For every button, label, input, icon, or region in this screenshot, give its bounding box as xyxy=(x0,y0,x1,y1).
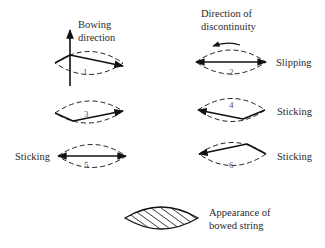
frame-6: 6 xyxy=(199,143,266,171)
svg-text:2: 2 xyxy=(229,67,234,77)
frame-4: 4 xyxy=(198,99,265,122)
direction-of-discontinuity-label: Direction of discontinuity xyxy=(201,8,257,32)
bowing-direction-label: Bowing direction xyxy=(78,19,116,43)
bowed-string-diagram: Bowing direction 1 Direction of disconti… xyxy=(0,0,325,248)
svg-text:1: 1 xyxy=(83,67,88,77)
svg-text:Appearance of: Appearance of xyxy=(209,207,271,218)
state-label-6: Sticking xyxy=(277,151,313,162)
discontinuity-arrow-icon xyxy=(213,43,240,46)
svg-text:Bowing: Bowing xyxy=(78,19,112,30)
frame-1: 1 xyxy=(55,52,123,78)
svg-text:4: 4 xyxy=(229,100,234,110)
frame-2: 2 xyxy=(196,50,266,77)
frame-5: 5 xyxy=(58,145,126,171)
svg-text:bowed string: bowed string xyxy=(209,220,264,231)
svg-text:6: 6 xyxy=(229,160,234,170)
svg-text:3: 3 xyxy=(84,109,89,119)
state-label-2: Slipping xyxy=(276,57,312,68)
state-label-5: Sticking xyxy=(15,151,51,162)
svg-text:5: 5 xyxy=(84,160,89,170)
bowed-string-envelope-icon xyxy=(90,200,220,236)
svg-text:direction: direction xyxy=(78,32,116,43)
appearance-label: Appearance of bowed string xyxy=(209,207,271,231)
svg-text:discontinuity: discontinuity xyxy=(201,21,257,32)
state-label-4: Sticking xyxy=(277,106,313,117)
svg-text:Direction of: Direction of xyxy=(201,8,253,19)
frame-3: 3 xyxy=(55,101,123,123)
